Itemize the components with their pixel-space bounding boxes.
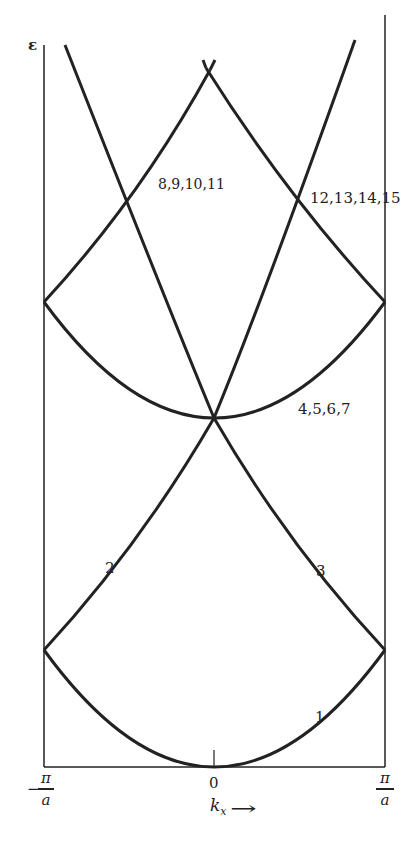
band-plot — [0, 0, 416, 841]
right-tick-label: π a — [376, 770, 394, 808]
band-label-3: 3 — [316, 562, 326, 580]
left-tick-num: π — [41, 769, 51, 787]
left-tick-bar — [38, 788, 54, 790]
band-label-12-15: 12,13,14,15 — [310, 189, 401, 207]
left-tick-label: π a — [38, 770, 54, 808]
x-axis-label-k: k — [210, 795, 220, 815]
band-label-2: 2 — [105, 559, 115, 577]
x-axis-arrow-icon: → — [230, 796, 257, 820]
x-axis-label: kx — [210, 795, 227, 818]
top-tip-right — [210, 60, 215, 70]
center-tick-label: 0 — [209, 774, 219, 792]
x-axis-label-sub: x — [220, 805, 226, 818]
top-tip-left — [203, 60, 206, 68]
right-tick-den: a — [381, 791, 390, 809]
band-label-1: 1 — [315, 708, 325, 726]
right-tick-num: π — [380, 769, 390, 787]
band-label-8-11: 8,9,10,11 — [158, 176, 225, 192]
band-2-curve — [44, 418, 214, 650]
left-tick-den: a — [42, 791, 51, 809]
band-12-15-curve — [206, 68, 385, 302]
band-structure-figure: ε 8,9,10,11 12,13,14,15 4,5,6,7 2 3 1 − … — [0, 0, 416, 841]
right-tick-bar — [376, 788, 394, 790]
band-label-4-7: 4,5,6,7 — [298, 400, 350, 418]
band-1-curve — [44, 650, 385, 767]
y-axis-label: ε — [28, 36, 37, 54]
band-3-curve — [214, 418, 385, 650]
